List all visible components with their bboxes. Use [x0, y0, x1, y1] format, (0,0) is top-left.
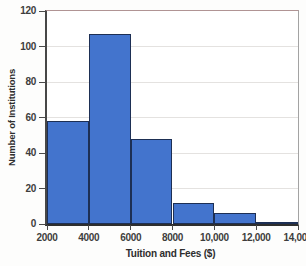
y-tick-60 [39, 117, 45, 118]
x-tick-label-6000: 6000 [109, 232, 153, 243]
y-tick-label-100: 100 [6, 41, 36, 52]
y-tick-label-120: 120 [6, 5, 36, 16]
bar-12000-14000 [256, 222, 298, 224]
x-tick-label-8000: 8000 [151, 232, 195, 243]
y-tick-0 [39, 224, 45, 225]
x-tick-label-12000: 12,000 [234, 232, 278, 243]
y-tick-label-0: 0 [6, 218, 36, 229]
x-tick-2000 [47, 225, 48, 230]
y-axis-title: Number of Institutions [6, 63, 17, 173]
y-tick-label-20: 20 [6, 183, 36, 194]
x-tick-10000 [214, 225, 215, 230]
y-tick-20 [39, 188, 45, 189]
bar-4000-6000 [89, 34, 131, 224]
bar-10000-12000 [214, 213, 256, 224]
x-tick-12000 [256, 225, 257, 230]
x-tick-label-10000: 10,000 [192, 232, 236, 243]
y-tick-40 [39, 153, 45, 154]
x-tick-6000 [130, 225, 131, 230]
x-tick-label-14000: 14,000 [276, 232, 306, 243]
y-tick-80 [39, 82, 45, 83]
bar-6000-8000 [131, 139, 173, 224]
x-tick-label-2000: 2000 [25, 232, 69, 243]
x-tick-8000 [172, 225, 173, 230]
plot-area [45, 10, 299, 226]
x-tick-label-4000: 4000 [67, 232, 111, 243]
gridline-y-80 [47, 82, 298, 83]
bar-2000-4000 [47, 121, 89, 224]
gridline-y-60 [47, 117, 298, 118]
x-tick-4000 [88, 225, 89, 230]
gridline-y-100 [47, 46, 298, 47]
x-axis-title: Tuition and Fees ($) [45, 248, 296, 259]
y-tick-100 [39, 46, 45, 47]
bar-8000-10000 [173, 203, 215, 224]
x-tick-14000 [298, 225, 299, 230]
histogram-chart: 020406080100120200040006000800010,00012,… [0, 0, 306, 266]
y-tick-120 [39, 11, 45, 12]
